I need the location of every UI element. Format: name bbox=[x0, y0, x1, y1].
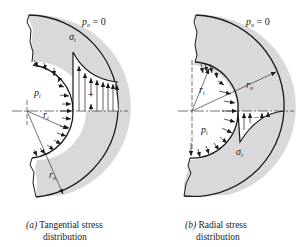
caption-b-line2: distribution bbox=[196, 232, 240, 242]
figure-a-tangential: + po = 0 σt pi ri ro bbox=[12, 15, 131, 242]
internal-pressure-arrows bbox=[34, 60, 72, 156]
break-line-bottom bbox=[30, 158, 36, 197]
outer-pressure-label: po = 0 bbox=[81, 16, 106, 28]
inner-radius-label: ri bbox=[199, 84, 205, 96]
outer-pressure-label: po = 0 bbox=[245, 16, 270, 28]
inner-pressure-label: pi bbox=[200, 124, 208, 136]
thick-walled-cylinder-diagram: + po = 0 σt pi ri ro bbox=[0, 0, 302, 247]
sign-label: − bbox=[253, 112, 260, 123]
sign-label: + bbox=[87, 88, 94, 100]
cylinder-wall-section bbox=[184, 15, 296, 196]
figure-b-radial: − po = 0 ri ro pi σr (b) Radial stre bbox=[178, 15, 296, 242]
caption-a-line2: distribution bbox=[43, 232, 87, 242]
caption-b-line1: (b) Radial stress bbox=[185, 220, 247, 231]
inner-pressure-label: pi bbox=[33, 87, 41, 99]
caption-a-line1: (a) Tangential stress bbox=[26, 220, 103, 231]
inner-boundary bbox=[32, 65, 73, 158]
